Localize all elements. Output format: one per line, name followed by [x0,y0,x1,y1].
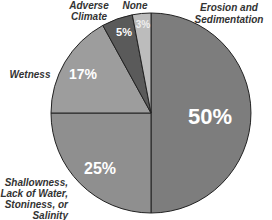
pie-chart: 50% 25% 17% 5% 3% Erosion and Sedimentat… [0,0,272,220]
label-shallowness-line2: Lack of Water, [0,188,68,199]
label-adverse-line1: Adverse [68,0,109,11]
label-shallowness-line3: Stoniness, or [5,199,69,210]
pct-label-shallowness: 25% [84,160,116,177]
pct-label-none: 3% [136,19,151,30]
pct-label-erosion: 50% [188,104,232,129]
label-erosion-line1: Erosion and [200,2,259,13]
label-erosion-line2: Sedimentation [195,14,264,25]
label-shallowness-line4: Salinity [32,210,68,220]
label-none: None [123,0,148,11]
label-wetness: Wetness [10,69,51,80]
pct-label-wetness: 17% [69,66,98,82]
label-shallowness-line1: Shallowness, [5,177,68,188]
pct-label-adverse-climate: 5% [116,26,132,38]
label-adverse-line2: Climate [71,11,108,22]
